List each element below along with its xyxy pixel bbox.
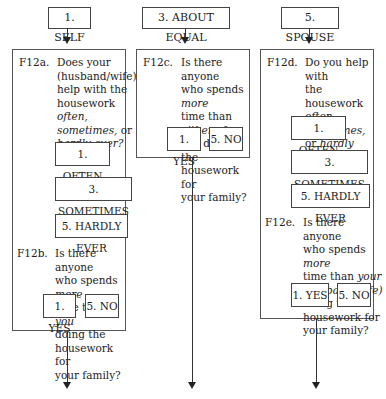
- question-code: F12b.: [17, 247, 48, 261]
- text-line: housework for: [55, 342, 123, 369]
- option-sometimes[interactable]: 3. SOMETIMES: [291, 150, 368, 174]
- arrow-down-icon: [188, 382, 196, 389]
- header-about-equal: 3. ABOUT EQUAL: [142, 7, 230, 29]
- option-often[interactable]: 1. OFTEN: [55, 142, 110, 166]
- question-code: F12d.: [267, 56, 298, 70]
- panel-about-equal: F12c. Is there anyone who spends more ti…: [136, 49, 250, 158]
- question-code: F12a.: [19, 56, 49, 70]
- text-line: who spends more: [181, 83, 249, 110]
- question-f12d: F12d. Do you help with the housework oft…: [267, 56, 373, 112]
- exit-line: [316, 319, 317, 383]
- arrow-down-icon: [63, 382, 71, 389]
- text-line: your family?: [303, 324, 383, 338]
- question-f12a: F12a. Does your (husband/wife) help with…: [19, 56, 123, 136]
- text-line: housework often,: [57, 97, 137, 124]
- option-often[interactable]: 1. OFTEN: [291, 116, 346, 140]
- question-code: F12c.: [143, 56, 173, 70]
- option-no[interactable]: 5. NO: [337, 283, 371, 307]
- arrow-down-icon: [305, 37, 313, 44]
- option-yes[interactable]: 1. YES: [43, 294, 76, 318]
- text-line: Is there anyone: [303, 216, 383, 243]
- text-line: (husband/wife): [57, 70, 137, 84]
- text-line: Is there anyone: [55, 247, 123, 274]
- text-line: your family?: [55, 369, 123, 383]
- text-line: the housework: [305, 83, 373, 110]
- header-spouse: 5. SPOUSE: [281, 7, 339, 29]
- question-text: Is there anyone who spends more time tha…: [303, 216, 383, 338]
- exit-line: [67, 331, 68, 383]
- arrow-down-icon: [63, 37, 71, 44]
- exit-line: [192, 158, 193, 383]
- option-yes[interactable]: 1. YES: [167, 127, 201, 151]
- text-line: time than your: [303, 270, 383, 284]
- text-line: Is there anyone: [181, 56, 249, 83]
- text-line: Do you help with: [305, 56, 373, 83]
- option-hardly-ever[interactable]: 5. HARDLY EVER: [291, 184, 370, 208]
- cut-off-text: [0, 0, 386, 2]
- panel-spouse: F12d. Do you help with the housework oft…: [260, 49, 374, 319]
- header-self: 1. SELF: [48, 7, 91, 29]
- question-code: F12e.: [265, 216, 295, 230]
- panel-self: F12a. Does your (husband/wife) help with…: [12, 49, 126, 331]
- text-line: sometimes, or: [57, 124, 137, 138]
- question-text: Does your (husband/wife) help with the h…: [57, 56, 137, 151]
- option-no[interactable]: 5. NO: [85, 294, 119, 318]
- arrow-down-icon: [181, 37, 189, 44]
- option-no[interactable]: 5. NO: [209, 127, 243, 151]
- text-line: help with the: [57, 83, 137, 97]
- text-line: housework for: [303, 311, 383, 325]
- option-sometimes[interactable]: 3. SOMETIMES: [55, 177, 132, 201]
- text-line: Does your: [57, 56, 137, 70]
- option-hardly-ever[interactable]: 5. HARDLY EVER: [55, 214, 128, 238]
- option-yes[interactable]: 1. YES: [291, 283, 329, 307]
- text-line: who spends more: [303, 243, 383, 270]
- arrow-down-icon: [312, 382, 320, 389]
